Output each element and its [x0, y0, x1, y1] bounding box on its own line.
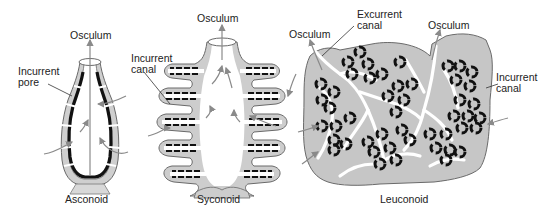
asconoid-caption: Asconoid	[65, 193, 108, 205]
syconoid-caption: Syconoid	[197, 193, 240, 205]
leuconoid-caption: Leuconoid	[380, 193, 428, 205]
asconoid-incurrent-pore-label: Incurrent pore	[18, 66, 59, 88]
asconoid-osculum-label: Osculum	[70, 30, 111, 41]
leuconoid-osculum-left-label: Osculum	[289, 29, 330, 40]
syconoid-incurrent-canal-label: Incurrent canal	[131, 53, 172, 75]
asconoid-figure	[44, 40, 128, 194]
syconoid-osculum-label: Osculum	[197, 13, 238, 24]
leuconoid-figure	[298, 26, 508, 185]
sponge-body-plans-diagram: Osculum Incurrent pore Asconoid Osculum …	[0, 0, 554, 214]
leuconoid-osculum-right-label: Osculum	[428, 20, 469, 31]
syconoid-figure	[144, 25, 296, 198]
leuconoid-incurrent-canal-label: Incurrent canal	[496, 72, 537, 94]
leuconoid-excurrent-canal-label: Excurrent canal	[357, 9, 402, 31]
